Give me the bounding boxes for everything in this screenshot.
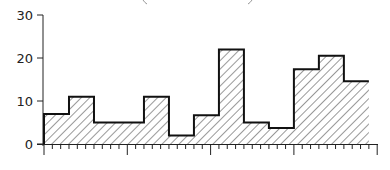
y-axis: 0102030: [16, 8, 43, 152]
title-fragment: [143, 0, 252, 4]
plot-area: [44, 49, 369, 144]
y-tick-label: 20: [16, 51, 33, 66]
y-tick-label: 0: [25, 137, 33, 152]
x-axis: [37, 145, 378, 156]
x-ticks: [44, 145, 377, 156]
histogram-chart: 0102030: [0, 0, 390, 170]
y-ticks: 0102030: [16, 8, 43, 152]
y-tick-label: 30: [16, 8, 33, 23]
y-tick-label: 10: [16, 94, 33, 109]
